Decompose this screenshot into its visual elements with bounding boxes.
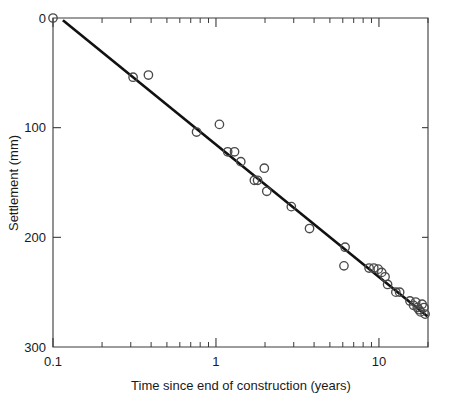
y-axis-major-ticks: [53, 128, 428, 238]
x-tick-label: 10: [372, 354, 386, 369]
x-axis-minor-ticks: [102, 18, 428, 347]
data-point-group: [49, 14, 430, 319]
y-tick-label: 200: [24, 230, 46, 245]
data-point: [144, 71, 152, 79]
settlement-chart-figure: 0.1110 0100200300 Time since end of cons…: [0, 0, 458, 405]
y-tick-label: 300: [24, 340, 46, 355]
data-point: [260, 164, 268, 172]
data-point: [215, 120, 223, 128]
y-axis-title: Settlement (mm): [6, 135, 21, 231]
plot-frame-border: [53, 18, 428, 347]
y-tick-label: 100: [24, 120, 46, 135]
plot-frame: [53, 18, 428, 347]
x-axis-title: Time since end of construction (years): [131, 378, 351, 393]
y-axis-tick-labels: 0100200300: [24, 11, 46, 355]
data-point: [305, 224, 313, 232]
x-axis-tick-labels: 0.1110: [44, 354, 386, 369]
x-axis-major-ticks: [53, 18, 379, 347]
x-tick-label: 1: [212, 354, 219, 369]
x-tick-label: 0.1: [44, 354, 62, 369]
chart-canvas: 0.1110 0100200300 Time since end of cons…: [0, 0, 458, 405]
data-point: [263, 187, 271, 195]
data-point: [340, 262, 348, 270]
y-tick-label: 0: [39, 11, 46, 26]
